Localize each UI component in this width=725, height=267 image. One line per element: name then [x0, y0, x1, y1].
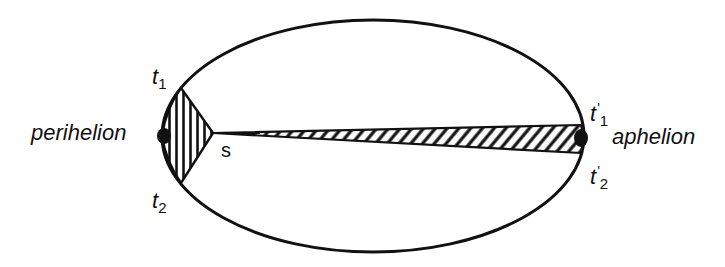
t2-label: t2: [152, 188, 166, 216]
aphelion-point-icon: [574, 129, 588, 147]
aphelion-swept-area: [213, 125, 583, 153]
t1-label: t1: [152, 64, 166, 92]
t2-prime-label: t'2: [590, 163, 608, 192]
t1-prime-label: t'1: [590, 100, 608, 129]
sun-label: s: [221, 139, 231, 162]
perihelion-point-icon: [157, 128, 171, 144]
aphelion-label: aphelion: [612, 124, 695, 150]
perihelion-label: perihelion: [31, 120, 126, 146]
